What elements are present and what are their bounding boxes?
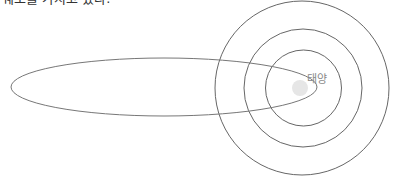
orbit-diagram: 태양: [0, 0, 403, 178]
sun: [292, 80, 308, 96]
sun-label: 태양: [307, 73, 327, 86]
elliptical-orbit: [11, 58, 317, 116]
